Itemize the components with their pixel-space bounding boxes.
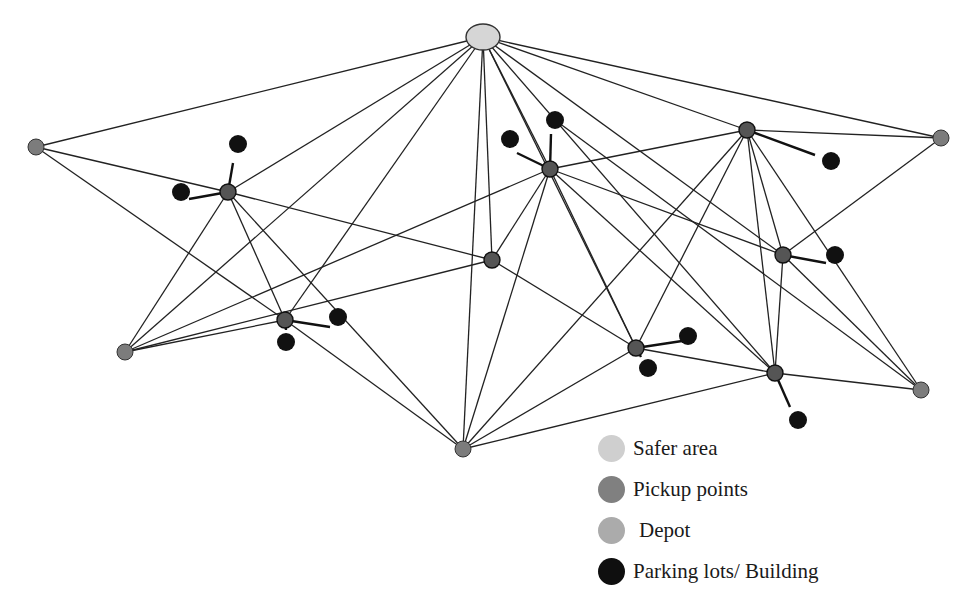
route-edge <box>125 320 285 352</box>
edge-layer <box>36 37 941 449</box>
route-edge <box>36 147 285 320</box>
depot-node <box>117 344 133 360</box>
route-edge <box>783 138 941 255</box>
route-edge <box>747 130 783 255</box>
legend-item-safer-area: Safer area <box>598 428 819 469</box>
parking-connector <box>747 130 815 155</box>
parking-lot-node <box>679 327 697 345</box>
parking-lot-node <box>822 152 840 170</box>
route-edge <box>36 147 228 192</box>
pickup-point-swatch-icon <box>598 476 625 503</box>
legend-item-pickup-points: Pickup points <box>598 469 819 510</box>
route-edge <box>775 373 921 390</box>
legend-item-parking-lots: Parking lots/ Building <box>598 551 819 592</box>
route-edge <box>636 130 747 348</box>
depot-node <box>933 130 949 146</box>
route-edge <box>483 37 492 260</box>
route-edge <box>125 192 228 352</box>
parking-lot-node <box>789 411 807 429</box>
parking-lot-node <box>172 183 190 201</box>
legend-label: Depot <box>639 518 690 543</box>
route-edge <box>775 255 783 373</box>
legend-label: Pickup points <box>633 477 748 502</box>
parking-lot-node <box>277 333 295 351</box>
node-layer <box>28 24 949 457</box>
pickup-point-node <box>628 340 644 356</box>
pickup-point-node <box>775 247 791 263</box>
depot-swatch-icon <box>598 517 625 544</box>
pickup-point-node <box>277 312 293 328</box>
route-edge <box>555 120 921 390</box>
route-edge <box>228 37 483 192</box>
safer-area-swatch-icon <box>598 435 625 462</box>
pickup-point-node <box>220 184 236 200</box>
pickup-point-node <box>739 122 755 138</box>
legend-label: Safer area <box>633 436 718 461</box>
legend: Safer area Pickup points Depot Parking l… <box>598 428 819 592</box>
pickup-point-node <box>542 161 558 177</box>
route-edge <box>492 169 550 260</box>
pickup-point-node <box>484 252 500 268</box>
network-diagram <box>0 0 976 615</box>
route-edge <box>285 320 463 449</box>
parking-lot-node <box>229 135 247 153</box>
safer-area-node <box>466 24 500 50</box>
depot-node <box>455 441 471 457</box>
parking-lot-node <box>546 111 564 129</box>
route-edge <box>36 37 483 147</box>
parking-lot-swatch-icon <box>598 558 625 585</box>
depot-node <box>913 382 929 398</box>
route-edge <box>463 169 550 449</box>
legend-item-depot: Depot <box>598 510 819 551</box>
route-edge <box>285 37 483 320</box>
parking-lot-node <box>826 246 844 264</box>
pickup-point-node <box>767 365 783 381</box>
route-edge <box>783 255 921 390</box>
route-edge <box>463 37 483 449</box>
parking-lot-node <box>329 308 347 326</box>
depot-node <box>28 139 44 155</box>
route-edge <box>125 260 492 352</box>
parking-lot-node <box>639 359 657 377</box>
legend-label: Parking lots/ Building <box>633 559 819 584</box>
parking-lot-node <box>501 130 519 148</box>
